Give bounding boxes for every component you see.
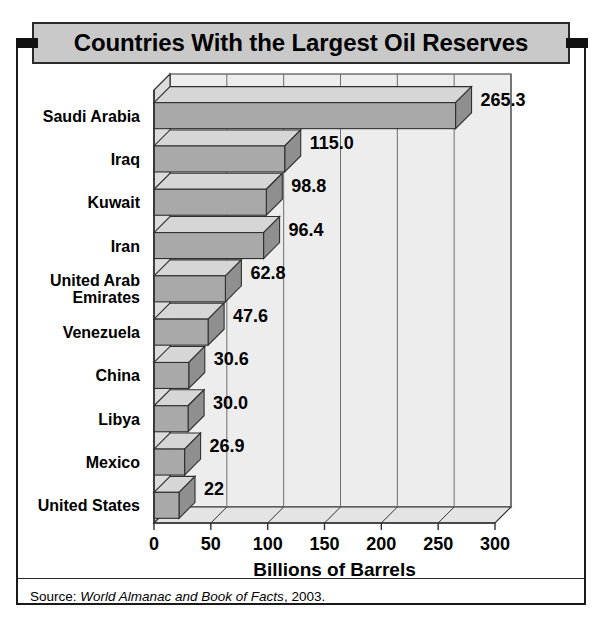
x-axis-tick-label: 0 [149,534,159,554]
bar-value-label: 26.9 [210,436,245,456]
category-label: Iran [111,238,140,255]
bar-value-label: 30.6 [214,349,249,369]
source-note: Source: World Almanac and Book of Facts,… [30,589,325,604]
x-axis-title: Billions of Barrels [253,559,416,580]
bar-front-face [154,189,266,215]
x-axis-tick-label: 250 [423,534,453,554]
category-label: Emirates [72,289,140,306]
bar-group [154,130,301,172]
category-label: United Arab [50,272,140,289]
bar-front-face [154,319,208,345]
x-axis-tick-label: 200 [366,534,396,554]
source-divider [18,578,584,579]
x-axis-tick-label: 50 [201,534,221,554]
chart-plot-region: 22United States26.9Mexico30.0Libya30.6Ch… [16,60,586,580]
bar-group [154,173,282,215]
category-label: Libya [98,411,140,428]
bar-value-label: 96.4 [289,220,324,240]
chart-title-banner: Countries With the Largest Oil Reserves [32,22,570,64]
category-label: China [96,367,141,384]
category-label: Venezuela [63,324,140,341]
bar-value-label: 30.0 [213,393,248,413]
category-label: Kuwait [88,194,141,211]
category-label: Mexico [86,454,140,471]
bar-front-face [154,492,179,518]
x-axis-tick-label: 300 [480,534,510,554]
category-label: United States [38,497,140,514]
bar-front-face [154,362,189,388]
bar-front-face [154,233,264,259]
x-axis-tick-label: 150 [309,534,339,554]
source-prefix: Source: [30,589,80,604]
bar-value-label: 47.6 [233,306,268,326]
bar-value-label: 22 [204,479,224,499]
bar-value-label: 98.8 [291,176,326,196]
bar-top-face [154,130,301,146]
bar-value-label: 62.8 [250,263,285,283]
bar-front-face [154,406,188,432]
title-tab-left-icon [16,38,38,48]
bar-group [154,303,224,345]
bar-group [154,260,241,302]
category-label: Saudi Arabia [43,108,140,125]
bar-value-label: 265.3 [481,90,526,110]
bar-front-face [154,276,225,302]
bar-top-face [154,173,282,189]
x-axis-tick-label: 100 [253,534,283,554]
title-tab-right-icon [566,38,588,48]
page-title: Countries With the Largest Oil Reserves [74,29,529,57]
bar-value-label: 115.0 [310,133,354,153]
bar-group [154,217,280,259]
bar-top-face [154,217,280,233]
figure-container: Countries With the Largest Oil Reserves … [0,0,604,634]
bar-top-face [154,87,472,103]
bar-front-face [154,146,285,172]
source-year: , 2003. [284,589,325,604]
bar-group [154,87,472,129]
source-publication: World Almanac and Book of Facts [80,589,284,604]
bar-chart-svg: 22United States26.9Mexico30.0Libya30.6Ch… [16,60,586,580]
category-label: Iraq [111,151,140,168]
bar-front-face [154,103,456,129]
bar-front-face [154,449,185,475]
